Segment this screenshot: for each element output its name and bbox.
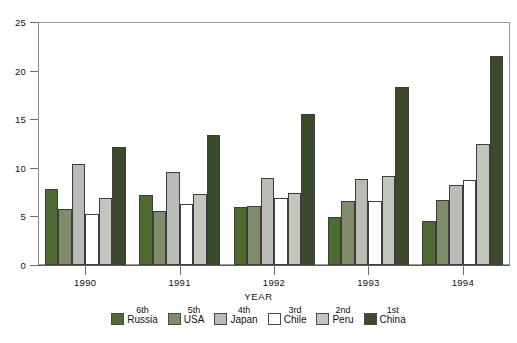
x-axis-tick-mark [85, 265, 86, 275]
bar-usa-1993 [341, 201, 355, 265]
bar-group-1991 [139, 22, 220, 265]
bar-china-1990 [112, 147, 126, 265]
legend-label-china: China [380, 315, 406, 326]
legend-swatch-japan-icon [214, 313, 227, 325]
legend-items: 6thRussia5thUSA4thJapan3rdChile2ndPeru1s… [0, 306, 517, 326]
x-axis-tick-mark [463, 265, 464, 275]
x-axis-tick-label-1990: 1990 [74, 277, 96, 288]
bar-japan-1993 [355, 179, 369, 266]
bar-japan-1990 [72, 164, 86, 265]
bar-russia-1994 [422, 221, 436, 265]
bar-chile-1992 [274, 198, 288, 265]
y-axis-tick-mark [30, 265, 38, 266]
bar-usa-1990 [58, 209, 72, 265]
y-axis-tick-label: 0 [21, 260, 26, 271]
bar-china-1994 [490, 56, 504, 265]
y-axis-tick-label: 5 [21, 211, 26, 222]
y-axis-tick-label: 15 [15, 114, 26, 125]
bar-usa-1994 [436, 200, 450, 265]
legend-item-china[interactable]: 1stChina [364, 306, 406, 326]
y-axis-tick-mark [30, 216, 38, 217]
bar-russia-1991 [139, 195, 153, 265]
y-axis-tick-mark [30, 71, 38, 72]
chart-legend: 6thRussia5thUSA4thJapan3rdChile2ndPeru1s… [0, 306, 517, 338]
bar-china-1993 [395, 87, 409, 265]
bar-china-1991 [207, 135, 221, 265]
x-axis-tick-label-1993: 1993 [357, 277, 379, 288]
legend-item-usa[interactable]: 5thUSA [168, 306, 205, 326]
x-axis-tick-label-1992: 1992 [263, 277, 285, 288]
legend-item-chile[interactable]: 3rdChile [268, 306, 307, 326]
bar-chile-1991 [180, 204, 194, 265]
legend-swatch-usa-icon [168, 313, 181, 325]
bar-group-1992 [234, 22, 315, 265]
bar-russia-1992 [234, 207, 248, 265]
legend-item-peru[interactable]: 2ndPeru [316, 306, 353, 326]
y-axis-tick-mark [30, 22, 38, 23]
y-axis-tick-label: 25 [15, 17, 26, 28]
x-axis-title: YEAR [0, 291, 517, 302]
bar-peru-1994 [476, 144, 490, 266]
bar-chile-1990 [85, 214, 99, 265]
x-axis-tick-label-1994: 1994 [452, 277, 474, 288]
bar-group-1993 [328, 22, 409, 265]
legend-swatch-china-icon [364, 313, 377, 325]
x-axis-tick-mark [180, 265, 181, 275]
bar-usa-1992 [247, 206, 261, 265]
legend-label-japan: Japan [230, 315, 257, 326]
x-axis-tick-mark [368, 265, 369, 275]
bar-peru-1993 [382, 176, 396, 265]
bar-chile-1994 [463, 180, 477, 265]
bar-japan-1991 [166, 172, 180, 265]
bar-peru-1992 [288, 193, 302, 265]
y-axis-tick-label: 20 [15, 65, 26, 76]
legend-swatch-chile-icon [268, 313, 281, 325]
bars-layer [38, 22, 510, 265]
y-axis-tick-label: 10 [15, 162, 26, 173]
bar-group-1994 [422, 22, 503, 265]
legend-swatch-peru-icon [316, 313, 329, 325]
legend-item-russia[interactable]: 6thRussia [111, 306, 158, 326]
bar-china-1992 [301, 114, 315, 265]
legend-item-japan[interactable]: 4thJapan [214, 306, 257, 326]
bar-russia-1990 [45, 189, 59, 265]
bar-group-1990 [45, 22, 126, 265]
y-axis: 0510152025 [0, 0, 38, 265]
legend-label-usa: USA [184, 315, 205, 326]
bar-japan-1992 [261, 178, 275, 265]
y-axis-tick-mark [30, 168, 38, 169]
x-axis-tick-mark [274, 265, 275, 275]
bar-russia-1993 [328, 217, 342, 265]
bar-chart-figure: 0510152025 19901991199219931994 YEAR 6th… [0, 0, 517, 343]
legend-swatch-russia-icon [111, 313, 124, 325]
bar-peru-1991 [193, 194, 207, 265]
bar-chile-1993 [368, 201, 382, 265]
bar-peru-1990 [99, 198, 113, 265]
bar-usa-1991 [153, 211, 167, 265]
legend-label-russia: Russia [127, 315, 158, 326]
legend-label-peru: Peru [332, 315, 353, 326]
bar-japan-1994 [449, 185, 463, 265]
y-axis-tick-mark [30, 119, 38, 120]
x-axis-tick-label-1991: 1991 [168, 277, 190, 288]
legend-label-chile: Chile [284, 315, 307, 326]
